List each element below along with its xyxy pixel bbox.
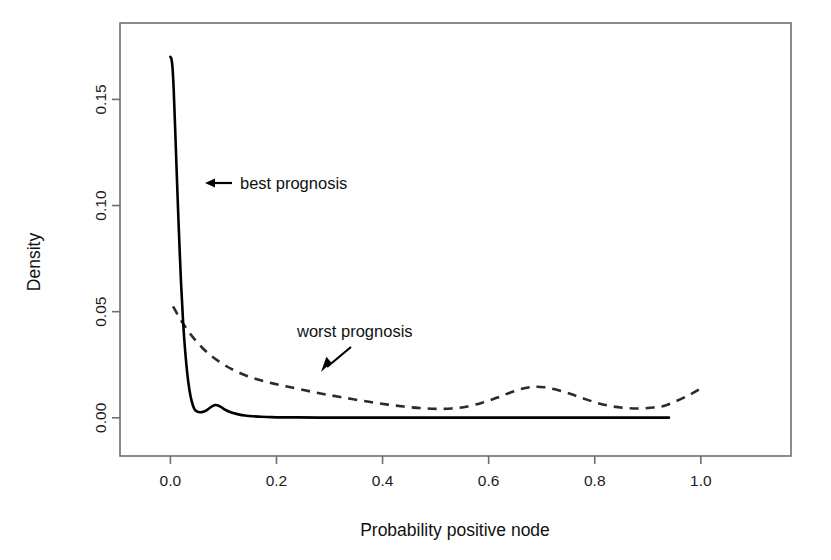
x-tick-label: 0.0 — [160, 472, 182, 489]
density-plot-canvas: 0.00.20.40.60.81.0 0.000.050.100.15 Prob… — [0, 0, 831, 560]
x-axis-title: Probability positive node — [360, 520, 550, 540]
x-tick-label: 0.2 — [266, 472, 288, 489]
density-plot-figure: 0.00.20.40.60.81.0 0.000.050.100.15 Prob… — [0, 0, 831, 560]
x-tick-label: 1.0 — [690, 472, 712, 489]
best-prognosis-label: best prognosis — [240, 174, 347, 192]
y-tick-label: 0.10 — [92, 190, 109, 221]
y-tick-label: 0.15 — [92, 84, 109, 114]
y-tick-label: 0.00 — [92, 402, 109, 433]
x-tick-label: 0.4 — [372, 472, 394, 489]
x-tick-label: 0.6 — [478, 472, 500, 489]
x-tick-label: 0.8 — [584, 472, 606, 489]
y-tick-label: 0.05 — [92, 297, 109, 327]
worst-prognosis-label: worst prognosis — [296, 322, 413, 340]
y-axis-title: Density — [24, 233, 44, 292]
